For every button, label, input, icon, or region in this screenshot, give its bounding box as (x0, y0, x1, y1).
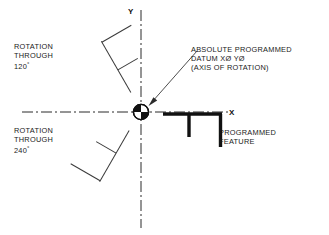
feature240-right-leg (71, 164, 100, 181)
feature240-top-bar (100, 131, 130, 182)
rotation-240-line2: THROUGH (14, 135, 53, 144)
x-axis-label: X (229, 108, 234, 117)
y-axis-label: Y (128, 7, 133, 16)
rotation-120-line2: THROUGH (14, 51, 53, 60)
rotation-120-value: 120 (14, 63, 27, 72)
feature-line1: PROGRAMMED (219, 128, 276, 137)
rotation-120-line1: ROTATION (14, 42, 53, 51)
leader-arrowhead (149, 97, 158, 106)
datum-line1: ABSOLUTE PROGRAMMED (191, 45, 292, 54)
programmed-feature-label: PROGRAMMEDFEATURE (219, 128, 276, 146)
feature120-right-leg (102, 25, 131, 42)
programmed-feature-240deg (70, 114, 129, 182)
technical-diagram-svg (0, 0, 329, 235)
rotation-240-label: ROTATIONTHROUGH240° (14, 126, 53, 156)
datum-line2: DATUM XØ YØ (191, 54, 245, 63)
datum-line3: (AXIS OF ROTATION) (191, 63, 269, 72)
feature240-middle-leg (96, 142, 116, 154)
rotation-240-line1: ROTATION (14, 126, 53, 135)
feature120-middle-leg (118, 58, 138, 69)
rotation-120-label: ROTATIONTHROUGH120° (14, 42, 53, 72)
diagram-canvas: ROTATIONTHROUGH120° ROTATIONTHROUGH240° … (0, 0, 329, 235)
rotation-240-degree-symbol: ° (27, 145, 29, 151)
rotation-120-degree-symbol: ° (27, 61, 29, 67)
quadrant-datum-circle (133, 104, 148, 119)
datum-annotation-label: ABSOLUTE PROGRAMMEDDATUM XØ YØ(AXIS OF R… (191, 45, 292, 73)
feature-line2: FEATURE (219, 137, 255, 146)
rotation-240-value: 240 (14, 147, 27, 156)
feature120-top-bar (101, 41, 131, 92)
programmed-feature-120deg (101, 24, 160, 92)
programmed-feature-0deg (163, 114, 222, 147)
datum-leader-arrow (149, 51, 198, 106)
